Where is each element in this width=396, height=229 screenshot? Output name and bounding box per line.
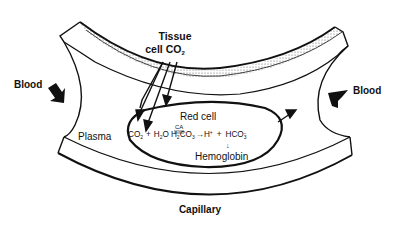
bottom-left-end-cap [58, 137, 64, 153]
blood-right-label: Blood [353, 85, 381, 96]
capillary-top-wall-stipple [80, 22, 342, 78]
blood-left-arrow-icon [48, 83, 65, 103]
capillary-label: Capillary [179, 204, 222, 215]
tissue-label: Tissue [158, 30, 191, 42]
bottom-right-end-cap [350, 137, 352, 155]
red-cell-label: Red cell [180, 111, 216, 122]
blood-right-arrow-icon [328, 90, 348, 108]
plasma-label: Plasma [78, 131, 112, 142]
bicarbonate-exit-arrow [278, 110, 296, 122]
capillary-diagram: Tissue cell CO2 Blood Blood Plasma Red c… [0, 0, 396, 229]
h-to-hemoglobin-arrow: ↓ [226, 142, 230, 149]
capillary-left-wall [64, 42, 81, 137]
carbonic-acid-equation: CO2+H2OH2CO3→H++HCO3− [128, 129, 247, 140]
carbonic-anhydrase-label: CA [175, 124, 183, 130]
hemoglobin-label: Hemoglobin [195, 151, 248, 162]
tissue-cell-co2-label: cell CO2 [145, 43, 185, 56]
blood-left-label: Blood [14, 79, 42, 90]
capillary-top-wall-outer [80, 22, 335, 69]
